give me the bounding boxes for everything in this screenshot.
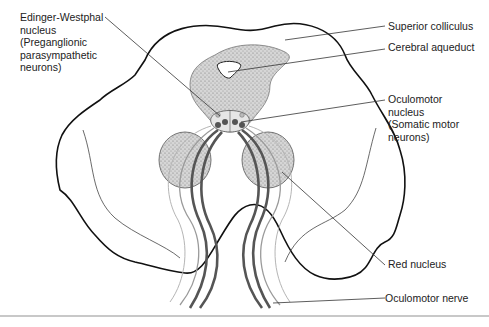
leader-superior-colliculus [285, 26, 385, 40]
label-line: neurons) [20, 61, 103, 74]
label-line: Edinger-Westphal [20, 11, 103, 24]
label-line: (Somatic motor [388, 118, 459, 131]
label-oculomotor-nucleus: Oculomotor nucleus (Somatic motor neuron… [388, 93, 459, 143]
label-line: neurons) [388, 131, 459, 144]
label-line: (Preganglionic [20, 36, 103, 49]
label-red-nucleus: Red nucleus [388, 258, 446, 271]
bottom-divider [0, 315, 489, 317]
label-cerebral-aqueduct: Cerebral aqueduct [388, 41, 474, 54]
leader-oculomotor-nerve [273, 298, 385, 303]
label-superior-colliculus: Superior colliculus [388, 20, 473, 33]
label-line: nucleus [20, 24, 103, 37]
right-peduncle-contour [285, 128, 376, 262]
label-line: nucleus [388, 106, 459, 119]
label-edinger-westphal: Edinger-Westphal nucleus (Preganglionic … [20, 11, 103, 74]
label-oculomotor-nerve: Oculomotor nerve [385, 292, 468, 305]
leader-red-nucleus [282, 172, 385, 265]
label-line: parasympathetic [20, 49, 103, 62]
label-line: Oculomotor [388, 93, 459, 106]
